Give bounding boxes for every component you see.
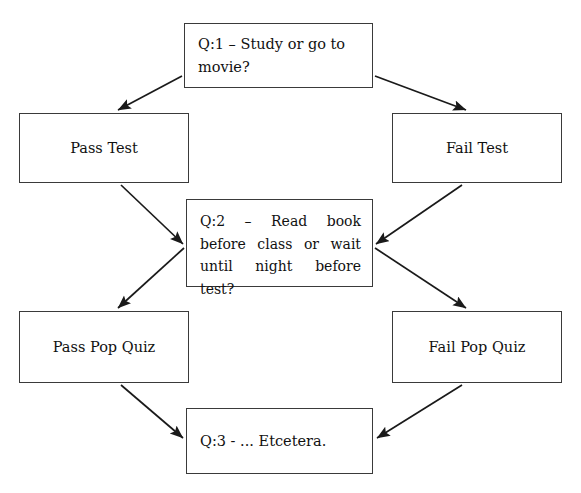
node-fail-pop-quiz[interactable]: Fail Pop Quiz (392, 311, 562, 383)
node-question-2[interactable]: Q:2 – Read book before class or wait unt… (186, 199, 373, 287)
node-pass-pop-quiz[interactable]: Pass Pop Quiz (19, 311, 189, 383)
edge-fail-test-to-q2 (376, 185, 462, 244)
flowchart-canvas: Q:1 – Study or go to movie? Pass Test Fa… (0, 0, 581, 493)
node-pass-pop-quiz-label: Pass Pop Quiz (20, 336, 188, 358)
edge-q1-to-pass-test (118, 76, 182, 110)
edge-pass-test-to-q2 (121, 185, 183, 244)
node-question-1[interactable]: Q:1 – Study or go to movie? (184, 23, 373, 88)
node-question-2-label: Q:2 – Read book before class or wait unt… (200, 200, 361, 301)
edge-q2-to-fail-quiz (375, 248, 466, 308)
edge-q2-to-pass-quiz (118, 248, 184, 308)
edge-fail-quiz-to-q3 (377, 385, 462, 438)
node-fail-test-label: Fail Test (393, 137, 561, 159)
node-fail-test[interactable]: Fail Test (392, 113, 562, 183)
node-question-1-label: Q:1 – Study or go to movie? (198, 33, 362, 78)
node-pass-test-label: Pass Test (20, 137, 188, 159)
node-pass-test[interactable]: Pass Test (19, 113, 189, 183)
node-fail-pop-quiz-label: Fail Pop Quiz (393, 336, 561, 358)
node-question-3-label: Q:3 - ... Etcetera. (200, 430, 362, 452)
edge-pass-quiz-to-q3 (121, 385, 183, 438)
node-question-3[interactable]: Q:3 - ... Etcetera. (186, 408, 373, 474)
edge-q1-to-fail-test (375, 76, 466, 110)
